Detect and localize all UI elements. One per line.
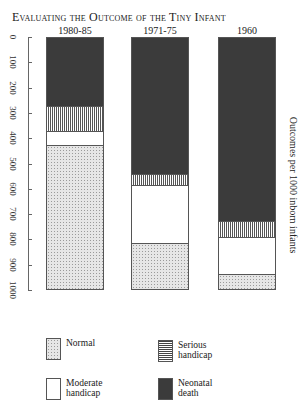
y-tick xyxy=(28,239,32,240)
striped-swatch-icon xyxy=(158,340,173,362)
segment-moderate xyxy=(219,237,275,274)
y-tick xyxy=(28,290,32,291)
chart-title: Evaluating the Outcome of the Tiny Infan… xyxy=(12,10,226,25)
segment-death xyxy=(219,38,275,221)
segment-serious xyxy=(132,174,188,185)
y-tick-label: 100 xyxy=(7,50,19,74)
y-tick xyxy=(28,214,32,215)
y-tick-label: 400 xyxy=(7,126,19,150)
column-label-1980-85: 1980-85 xyxy=(45,25,105,36)
y-tick xyxy=(28,37,32,38)
segment-normal xyxy=(219,274,275,289)
column-label-1971-75: 1971-75 xyxy=(130,25,190,36)
y-axis-label: Outcomes per 1000 inborn infants xyxy=(286,85,300,285)
legend-item-normal: Normal xyxy=(46,338,116,360)
blank-swatch-icon xyxy=(46,378,61,400)
segment-death xyxy=(47,38,103,106)
dark-swatch-icon xyxy=(158,378,173,400)
y-tick-label: 700 xyxy=(7,202,19,226)
y-tick xyxy=(28,113,32,114)
y-tick-label: 300 xyxy=(7,101,19,125)
column-label-1960: 1960 xyxy=(217,25,277,36)
y-tick-label: 1000 xyxy=(7,278,19,302)
bar-1980-85 xyxy=(46,37,104,290)
segment-moderate xyxy=(47,131,103,145)
stipple-swatch-icon xyxy=(46,338,61,360)
segment-moderate xyxy=(132,185,188,243)
y-tick-label: 0 xyxy=(7,25,19,49)
segment-serious xyxy=(219,221,275,237)
y-tick xyxy=(28,62,32,63)
bar-1960 xyxy=(218,37,276,290)
y-tick xyxy=(28,138,32,139)
segment-death xyxy=(132,38,188,174)
y-tick-label: 600 xyxy=(7,177,19,201)
legend-item-death: Neonatal death xyxy=(158,378,228,400)
y-tick xyxy=(28,88,32,89)
segment-serious xyxy=(47,106,103,131)
y-tick-label: 800 xyxy=(7,227,19,251)
legend-item-serious: Serious handicap xyxy=(158,340,228,362)
bar-1971-75 xyxy=(131,37,189,290)
y-tick-label: 900 xyxy=(7,253,19,277)
legend-item-moderate: Moderate handicap xyxy=(46,378,116,400)
segment-normal xyxy=(47,145,103,289)
y-tick xyxy=(28,189,32,190)
segment-normal xyxy=(132,243,188,289)
y-tick xyxy=(28,265,32,266)
y-tick-label: 200 xyxy=(7,76,19,100)
y-tick xyxy=(28,164,32,165)
y-tick-label: 500 xyxy=(7,152,19,176)
